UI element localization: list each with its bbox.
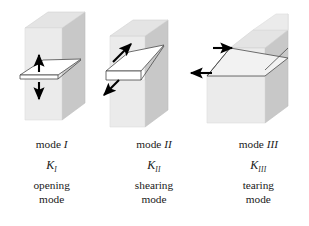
mode-2-lower-front-face: [110, 80, 145, 127]
mode-2-title: mode II: [103, 136, 204, 150]
mode-1-description-line1: opening: [1, 171, 102, 191]
mode-3-upper-rear-top: [253, 14, 288, 30]
mode-2-caption: mode II KII shearing mode: [103, 136, 204, 226]
mode-2-description-line1: shearing: [103, 171, 204, 191]
mode-1-crack-thickness: [20, 75, 58, 79]
mode-1-description-line2: mode: [1, 192, 102, 205]
mode-3-description-line1: tearing: [208, 171, 309, 191]
mode-3-block: [191, 14, 288, 123]
mode-1-block: [20, 12, 85, 120]
mode-2-description-line2: mode: [103, 192, 204, 205]
mode-2-crack-thickness: [106, 71, 141, 80]
mode-2-right-face: [145, 20, 168, 127]
mode-2-block: [104, 20, 168, 127]
fracture-modes-figure: mode I KI opening mode mode II KII shear…: [0, 0, 309, 226]
mode-1-title: mode I: [1, 136, 102, 150]
mode-2-stress-symbol: KII: [103, 150, 204, 171]
mode-3-title: mode III: [208, 136, 309, 150]
mode-3-lower-front-face: [207, 76, 265, 123]
mode-1-stress-symbol: KI: [1, 150, 102, 171]
mode-1-caption: mode I KI opening mode: [1, 136, 102, 226]
mode-3-description-line2: mode: [208, 192, 309, 205]
mode-captions: mode I KI opening mode mode II KII shear…: [0, 136, 309, 226]
mode-3-caption: mode III KIII tearing mode: [208, 136, 309, 226]
mode-3-stress-symbol: KIII: [208, 150, 309, 171]
